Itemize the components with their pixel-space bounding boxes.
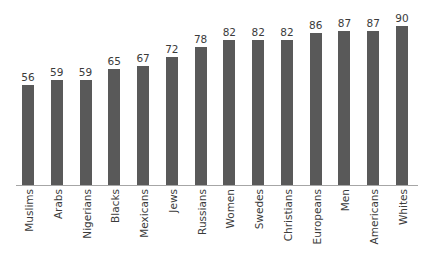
bar[interactable]	[22, 85, 34, 186]
bar-value-label: 72	[158, 43, 186, 55]
x-tick-label-group: Americans	[359, 188, 388, 261]
bar-value-label: 56	[14, 71, 42, 83]
x-tick-label: Blacks	[110, 189, 121, 223]
bar-value-label: 87	[359, 17, 387, 29]
bar-group: 78	[186, 0, 215, 186]
x-tick-label: Swedes	[254, 189, 265, 229]
bar[interactable]	[51, 80, 63, 186]
bar-value-label: 78	[187, 33, 215, 45]
x-tick-label-group: Russians	[186, 188, 215, 261]
x-tick-label-group: Arabs	[43, 188, 72, 261]
x-tick-label-group: Whites	[388, 188, 417, 261]
bar-value-label: 90	[388, 12, 416, 24]
x-tick-label-group: Blacks	[100, 188, 129, 261]
bar-group: 67	[129, 0, 158, 186]
bar[interactable]	[281, 40, 293, 186]
x-axis-line	[16, 185, 418, 186]
x-tick-label: Europeans	[312, 189, 323, 244]
x-tick-label: Muslims	[24, 189, 35, 232]
bar-group: 86	[301, 0, 330, 186]
x-tick-label: Christians	[283, 189, 294, 241]
bar-group: 65	[100, 0, 129, 186]
bar-value-label: 65	[100, 55, 128, 67]
bar[interactable]	[252, 40, 264, 186]
x-tick-label: Jews	[168, 189, 179, 213]
bar-value-label: 86	[302, 19, 330, 31]
bar-group: 87	[359, 0, 388, 186]
x-tick-label-group: Muslims	[14, 188, 43, 261]
bar-value-label: 67	[129, 52, 157, 64]
bar-group: 59	[43, 0, 72, 186]
bar[interactable]	[367, 31, 379, 186]
x-tick-label-group: Women	[215, 188, 244, 261]
x-tick-label: Mexicans	[139, 189, 150, 238]
bar-value-label: 82	[215, 26, 243, 38]
x-tick-label-group: Christians	[273, 188, 302, 261]
bar-value-label: 82	[244, 26, 272, 38]
bar-value-label: 82	[273, 26, 301, 38]
bar[interactable]	[80, 80, 92, 186]
bar-value-label: 87	[330, 17, 358, 29]
bar-group: 90	[388, 0, 417, 186]
bar[interactable]	[310, 33, 322, 186]
bar-group: 82	[273, 0, 302, 186]
bar[interactable]	[223, 40, 235, 186]
x-tick-label: Whites	[398, 189, 409, 225]
x-axis-labels: MuslimsArabsNigeriansBlacksMexicansJewsR…	[0, 188, 430, 261]
bar[interactable]	[108, 69, 120, 186]
bar[interactable]	[195, 47, 207, 186]
x-tick-label: Americans	[369, 189, 380, 244]
bar-group: 87	[330, 0, 359, 186]
x-tick-label-group: Swedes	[244, 188, 273, 261]
bar-group: 72	[158, 0, 187, 186]
bar-group: 56	[14, 0, 43, 186]
x-tick-label-group: Mexicans	[129, 188, 158, 261]
x-tick-label-group: Europeans	[301, 188, 330, 261]
bar[interactable]	[137, 66, 149, 186]
x-tick-label: Arabs	[53, 189, 64, 219]
bar-value-label: 59	[72, 66, 100, 78]
bar-group: 82	[244, 0, 273, 186]
bar[interactable]	[396, 26, 408, 186]
x-tick-label: Nigerians	[82, 189, 93, 239]
bar-group: 59	[71, 0, 100, 186]
bar-chart: 5659596567727882828286878790 MuslimsArab…	[0, 0, 430, 261]
x-tick-label-group: Nigerians	[71, 188, 100, 261]
x-tick-label: Women	[225, 189, 236, 229]
bar-value-label: 59	[43, 66, 71, 78]
x-tick-label-group: Men	[330, 188, 359, 261]
plot-area: 5659596567727882828286878790	[0, 0, 430, 186]
bar[interactable]	[338, 31, 350, 186]
bar[interactable]	[166, 57, 178, 186]
bar-group: 82	[215, 0, 244, 186]
x-tick-label: Men	[340, 189, 351, 211]
x-tick-label-group: Jews	[158, 188, 187, 261]
x-tick-label: Russians	[197, 189, 208, 235]
